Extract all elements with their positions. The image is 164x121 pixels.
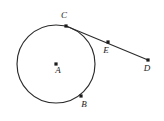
point-label-B: B [81,99,87,109]
point-label-C: C [61,10,68,20]
point-label-D: D [143,63,151,73]
point-dot-D [146,58,149,61]
point-dot-E [106,40,109,43]
point-label-A: A [54,65,61,75]
geometry-diagram: A C B E D [0,0,164,121]
point-dot-B [79,94,82,97]
point-label-E: E [102,45,109,55]
geometry-canvas: A C B E D [0,0,164,121]
point-dot-C [64,24,67,27]
